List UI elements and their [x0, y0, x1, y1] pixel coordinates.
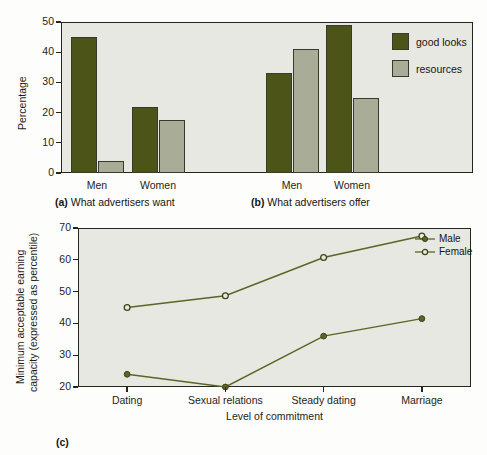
bar-resources-men [98, 161, 124, 173]
open-circle-marker [321, 255, 327, 261]
line-series-male [127, 319, 422, 387]
legend-swatch-resources [392, 60, 409, 77]
legend-item-male: Male [414, 232, 472, 245]
line-chart-y-tick-label: 60 [38, 253, 71, 265]
open-circle-marker [124, 305, 130, 311]
panel-c-caption: (c) [56, 436, 69, 448]
line-chart-y-tick-label: 30 [38, 348, 71, 360]
panel-b-tag: (b) [251, 196, 264, 208]
bar-resources-men [293, 49, 319, 173]
panel-a-tag: (a) [55, 196, 68, 208]
open-circle-marker-icon [414, 246, 436, 258]
bar-resources-women [159, 120, 185, 173]
line-chart-y-tick-label: 40 [38, 316, 71, 328]
bar-chart-y-tick-mark [56, 112, 61, 113]
bar-chart-y-tick-label: 0 [21, 166, 54, 178]
bar-chart-y-tick-label: 10 [21, 136, 54, 148]
legend-swatch-good-looks [392, 33, 409, 50]
bar-chart-y-tick-label: 50 [21, 15, 54, 27]
line-chart-x-tick-mark [421, 387, 422, 392]
bar-resources-women [353, 98, 379, 173]
bar-good-looks-women [132, 107, 158, 173]
bar-chart-y-tick-mark [56, 82, 61, 83]
filled-circle-marker [321, 333, 327, 339]
line-chart-y-tick-label: 20 [38, 380, 71, 392]
panel-b-caption: (b) What advertisers offer [251, 196, 370, 208]
line-chart-series [78, 228, 471, 387]
legend-label-good-looks: good looks [416, 36, 467, 48]
filled-circle-marker-icon [414, 233, 436, 245]
figure-container: Percentage 50403020100 MenWomenMenWomen … [0, 0, 487, 455]
bar-chart-y-tick-label: 40 [21, 45, 54, 57]
line-chart-category-label: Marriage [362, 394, 482, 406]
bar-good-looks-women [326, 25, 352, 173]
legend-label-resources: resources [416, 63, 462, 75]
line-series-female [127, 236, 422, 308]
line-chart-legend: Male Female [414, 232, 472, 258]
bar-chart-y-tick-mark [56, 142, 61, 143]
bar-chart-y-tick-mark [56, 52, 61, 53]
open-circle-marker [222, 293, 228, 299]
bar-chart-y-tick-mark [56, 21, 61, 22]
panel-a-text: What advertisers want [71, 196, 175, 208]
line-chart-y-tick-label: 50 [38, 285, 71, 297]
filled-circle-marker [124, 371, 130, 377]
bar-good-looks-men [266, 73, 292, 173]
legend-item-female: Female [414, 245, 472, 258]
line-chart-x-tick-mark [225, 387, 226, 392]
legend-item-good-looks: good looks [392, 33, 467, 50]
filled-circle-marker [419, 316, 425, 322]
bar-chart-y-tick-label: 30 [21, 75, 54, 87]
bar-good-looks-men [71, 37, 97, 173]
bar-chart-y-tick-mark [56, 172, 61, 173]
line-chart-x-tick-mark [126, 387, 127, 392]
legend-label-female: Female [439, 246, 472, 257]
legend-item-resources: resources [392, 60, 462, 77]
bar-chart-category-label: Women [113, 179, 203, 191]
legend-label-male: Male [439, 233, 461, 244]
panel-a-caption: (a) What advertisers want [55, 196, 175, 208]
line-chart-y-axis-label-line1: Minimum acceptable earning [14, 250, 26, 384]
panel-b-text: What advertisers offer [267, 196, 370, 208]
line-chart-x-axis-label: Level of commitment [78, 410, 471, 422]
bar-chart-y-tick-label: 20 [21, 106, 54, 118]
bar-chart-category-label: Women [307, 179, 397, 191]
line-chart-y-tick-label: 70 [38, 221, 71, 233]
line-chart-x-tick-mark [323, 387, 324, 392]
